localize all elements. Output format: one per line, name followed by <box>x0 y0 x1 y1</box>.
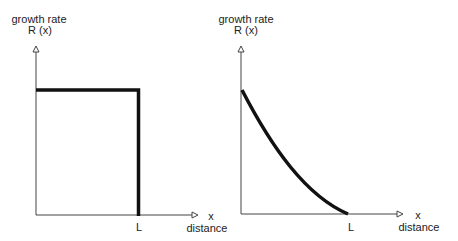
y-axis-arrow-icon <box>238 46 244 52</box>
decreasing-curve <box>242 90 348 214</box>
panel-step: growth rate R (x) L x distance <box>11 13 227 234</box>
x-axis-arrow-icon <box>192 212 198 218</box>
y-axis-arrow-icon <box>33 46 39 52</box>
step-curve <box>36 90 139 216</box>
x-axis-symbol: x <box>415 209 421 221</box>
y-axis-label-line2: R (x) <box>234 24 258 36</box>
x-axis-symbol: x <box>208 210 214 222</box>
diagram-canvas: growth rate R (x) L x distance growth ra… <box>0 0 458 241</box>
panel-decreasing: growth rate R (x) L x distance <box>218 13 439 233</box>
x-axis-arrow-icon <box>397 211 403 217</box>
x-axis-label: distance <box>399 221 440 233</box>
x-axis-label: distance <box>187 222 228 234</box>
y-axis-label-line2: R (x) <box>28 24 52 36</box>
x-tick-label-L: L <box>136 221 142 233</box>
x-tick-label-L: L <box>348 221 354 233</box>
